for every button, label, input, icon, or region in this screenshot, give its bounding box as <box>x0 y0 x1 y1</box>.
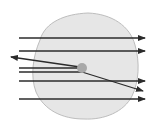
nucleus <box>77 63 87 73</box>
scattering-diagram <box>0 0 163 129</box>
